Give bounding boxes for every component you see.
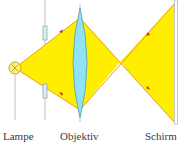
aperture-block-top: [43, 26, 47, 40]
screen: [175, 0, 178, 124]
light-cone-diverging: [120, 4, 174, 122]
light-cone-incoming-fill: [15, 18, 80, 110]
lamp-label: Lampe: [3, 130, 34, 142]
aperture-block-bottom: [43, 84, 47, 98]
projection-diagram: [0, 0, 182, 149]
screen-label: Schirm: [145, 130, 177, 142]
objective-label: Objektiv: [60, 130, 99, 142]
